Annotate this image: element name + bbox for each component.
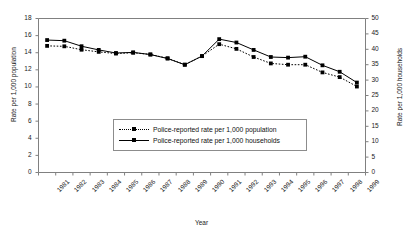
data-point-marker: [355, 85, 359, 89]
data-point-marker: [286, 56, 290, 60]
data-point-marker: [269, 55, 273, 59]
y-axis-left-tick-label: 2: [16, 152, 32, 159]
data-point-marker: [183, 63, 187, 67]
data-point-marker: [252, 48, 256, 52]
chart-container: Rate per 1,000 population Rate per 1,000…: [0, 0, 403, 239]
data-point-marker: [148, 53, 152, 57]
data-point-marker: [62, 44, 66, 48]
y-axis-right-tick-label: 0: [372, 169, 388, 176]
legend-key-solid-square-icon: [119, 136, 149, 146]
x-axis-title: Year: [0, 219, 403, 226]
series-line-1: [47, 39, 357, 82]
data-point-marker: [235, 47, 239, 51]
data-point-marker: [80, 44, 84, 48]
legend-key-dotted-square-icon: [119, 125, 149, 135]
data-point-marker: [321, 71, 325, 75]
y-axis-left-tick-label: 16: [16, 32, 32, 39]
data-point-marker: [355, 81, 359, 85]
y-axis-left-tick-label: 0: [16, 169, 32, 176]
y-axis-right-tick-label: 10: [372, 138, 388, 145]
data-point-marker: [303, 63, 307, 67]
y-axis-right-tick-label: 20: [372, 107, 388, 114]
y-axis-left-tick-label: 10: [16, 83, 32, 90]
data-point-marker: [45, 44, 49, 48]
y-axis-left-tick-label: 8: [16, 101, 32, 108]
y-axis-right-tick-label: 35: [372, 61, 388, 68]
y-axis-right-tick-label: 50: [372, 15, 388, 22]
data-point-marker: [286, 63, 290, 67]
data-point-marker: [114, 51, 118, 55]
chart-legend: Police-reported rate per 1,000 populatio…: [113, 119, 307, 151]
legend-label-households: Police-reported rate per 1,000 household…: [153, 137, 280, 144]
y-axis-left-tick-label: 12: [16, 66, 32, 73]
legend-item-population: Police-reported rate per 1,000 populatio…: [119, 124, 301, 135]
y-axis-right-tick-label: 15: [372, 123, 388, 130]
y-axis-left-tick-label: 6: [16, 118, 32, 125]
y-axis-right-tick-label: 5: [372, 154, 388, 161]
y-axis-left-tick-label: 14: [16, 49, 32, 56]
data-point-marker: [217, 42, 221, 46]
data-point-marker: [131, 50, 135, 54]
data-point-marker: [338, 75, 342, 79]
data-point-marker: [200, 54, 204, 58]
data-point-marker: [80, 48, 84, 52]
series-line-0: [47, 44, 357, 86]
data-point-marker: [321, 63, 325, 67]
data-point-marker: [235, 41, 239, 45]
data-point-marker: [252, 55, 256, 59]
data-point-marker: [62, 39, 66, 43]
y-axis-right-tick-label: 40: [372, 46, 388, 53]
y-axis-right-title: Rate per 1,000 households: [396, 48, 403, 126]
data-point-marker: [45, 38, 49, 42]
data-point-marker: [269, 62, 273, 66]
data-point-marker: [97, 48, 101, 52]
legend-label-population: Police-reported rate per 1,000 populatio…: [153, 126, 277, 133]
data-point-marker: [166, 57, 170, 61]
data-point-marker: [303, 55, 307, 59]
y-axis-left-tick-label: 4: [16, 135, 32, 142]
y-axis-left-tick-label: 18: [16, 15, 32, 22]
data-point-marker: [217, 37, 221, 41]
y-axis-right-tick-label: 45: [372, 30, 388, 37]
data-point-marker: [338, 70, 342, 74]
y-axis-right-tick-label: 25: [372, 92, 388, 99]
legend-item-households: Police-reported rate per 1,000 household…: [119, 135, 301, 146]
y-axis-right-tick-label: 30: [372, 77, 388, 84]
